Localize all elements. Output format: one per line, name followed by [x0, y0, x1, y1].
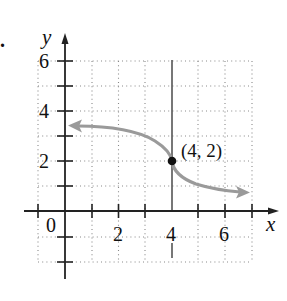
y-axis-arrow-icon — [62, 33, 69, 44]
graph: 9. — [0, 0, 287, 301]
x-tick-label-4: 4 — [166, 223, 176, 245]
y-tick-label-4: 4 — [39, 100, 49, 122]
y-tick-label-6: 6 — [39, 50, 49, 72]
problem-number: 9. — [0, 29, 5, 51]
y-axis-label: y — [40, 25, 52, 49]
axes — [24, 33, 279, 279]
x-tick-label-6: 6 — [219, 223, 229, 245]
x-tick-label-2: 2 — [113, 223, 123, 245]
point-label: (4, 2) — [181, 140, 222, 162]
point-4-2 — [168, 157, 177, 166]
y-tick-label-2: 2 — [39, 150, 49, 172]
x-tick-label-0: 0 — [46, 214, 56, 236]
curve — [68, 120, 250, 199]
x-axis-label: x — [265, 212, 276, 236]
